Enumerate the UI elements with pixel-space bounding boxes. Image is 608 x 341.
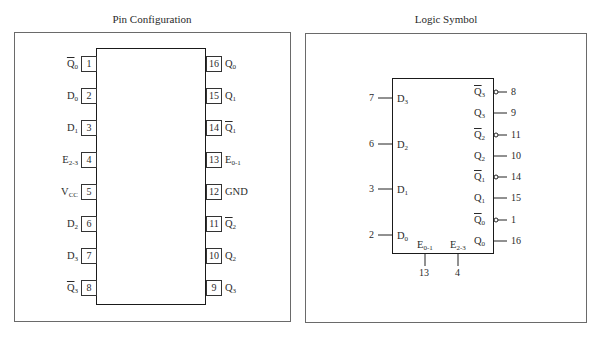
output-signal-label: Q0 [474, 234, 485, 251]
input-pin-number: 6 [369, 138, 374, 150]
output-signal-label: Q1 [474, 191, 485, 208]
inversion-bubble-icon [494, 133, 498, 137]
enable-signal-label: E2-3 [450, 238, 466, 255]
output-signal-label: Q2 [474, 128, 485, 145]
output-pin-number: 15 [511, 192, 521, 204]
input-pin-number: 2 [369, 229, 374, 241]
output-signal-label: Q0 [474, 213, 485, 230]
output-signal-label: Q3 [474, 106, 485, 123]
output-pin-number: 16 [511, 235, 521, 247]
input-signal-label: D3 [397, 92, 408, 109]
input-pin-number: 7 [369, 92, 374, 104]
output-pin-number: 11 [511, 129, 521, 141]
output-signal-label: Q2 [474, 149, 485, 166]
input-signal-label: D0 [397, 229, 408, 246]
inversion-bubble-icon [494, 218, 498, 222]
output-signal-label: Q1 [474, 170, 485, 187]
input-pin-number: 3 [369, 183, 374, 195]
enable-signal-label: E0-1 [417, 238, 433, 255]
output-pin-number: 9 [511, 107, 516, 119]
input-signal-label: D2 [397, 138, 408, 155]
output-signal-label: Q3 [474, 85, 485, 102]
output-pin-number: 8 [511, 86, 516, 98]
inversion-bubble-icon [494, 90, 498, 94]
output-pin-number: 1 [511, 214, 516, 226]
inversion-bubble-icon [494, 175, 498, 179]
output-pin-number: 14 [511, 171, 521, 183]
output-pin-number: 10 [511, 150, 521, 162]
enable-pin-number: 13 [419, 267, 429, 279]
enable-pin-number: 4 [455, 267, 460, 279]
input-signal-label: D1 [397, 183, 408, 200]
